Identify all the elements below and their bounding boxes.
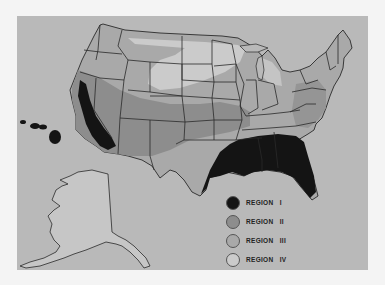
legend-label: REGION I (246, 199, 282, 206)
legend-item-region-iv: REGION IV (226, 250, 346, 269)
legend-item-region-ii: REGION II (226, 212, 346, 231)
legend-label: REGION II (246, 218, 284, 225)
map-legend: REGION I REGION II REGION III REGION IV (226, 193, 346, 269)
legend-item-region-iii: REGION III (226, 231, 346, 250)
legend-item-region-i: REGION I (226, 193, 346, 212)
alaska-inset (20, 170, 150, 268)
region-iv-swatch-icon (226, 253, 240, 267)
region-i-swatch-icon (226, 196, 240, 210)
region-ii-swatch-icon (226, 215, 240, 229)
legend-label: REGION IV (246, 256, 287, 263)
region-iii-swatch-icon (226, 234, 240, 248)
hawaii-inset (20, 120, 61, 144)
legend-label: REGION III (246, 237, 286, 244)
